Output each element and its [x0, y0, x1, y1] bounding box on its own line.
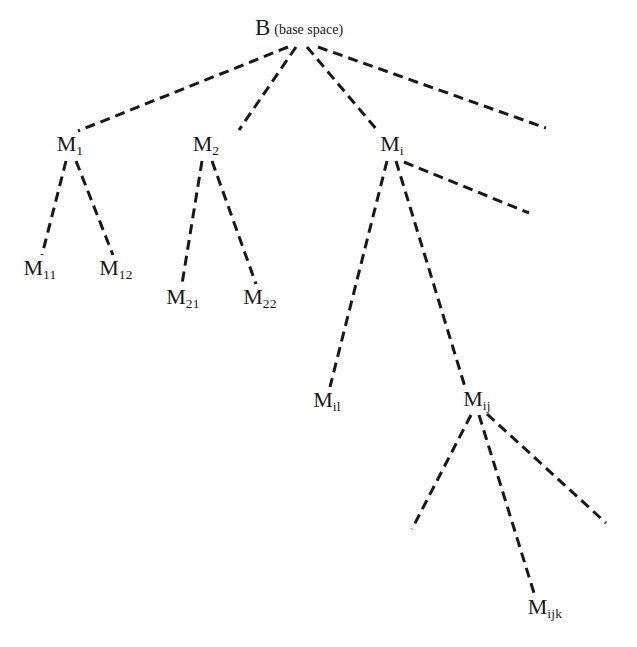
node-mijk-symbol: M — [528, 594, 548, 619]
node-m12: M12 — [99, 257, 132, 281]
node-m11-subscript: 11 — [43, 267, 56, 282]
node-m1-subscript: 1 — [76, 143, 83, 158]
node-m1-symbol: M — [57, 131, 77, 156]
node-m21: M21 — [166, 286, 199, 310]
node-mij: Mij — [463, 388, 490, 412]
node-base-space-symbol: B — [255, 15, 270, 40]
node-m12-subscript: 12 — [119, 267, 133, 282]
node-mijk: Mijk — [528, 596, 562, 620]
node-mil-symbol: M — [313, 387, 333, 412]
node-m11-symbol: M — [24, 255, 44, 280]
node-layer: B(base space) M1 M2 Mi M11 M12 M21 M22 M… — [0, 0, 637, 647]
node-mil-subscript: il — [333, 399, 341, 414]
node-mi-subscript: i — [400, 143, 404, 158]
node-m21-symbol: M — [166, 284, 186, 309]
node-mil: Mil — [313, 389, 340, 413]
node-m22-symbol: M — [243, 284, 263, 309]
node-m22: M22 — [243, 286, 276, 310]
node-mij-symbol: M — [463, 386, 483, 411]
node-mijk-subscript: ijk — [547, 606, 562, 621]
node-mi-symbol: M — [380, 131, 400, 156]
node-m12-symbol: M — [99, 255, 119, 280]
node-m11: M11 — [24, 257, 57, 281]
node-mij-subscript: ij — [483, 398, 491, 413]
node-m2-symbol: M — [193, 131, 213, 156]
node-m2-subscript: 2 — [212, 143, 219, 158]
tree-diagram: B(base space) M1 M2 Mi M11 M12 M21 M22 M… — [0, 0, 637, 647]
node-base-space-annotation: (base space) — [274, 22, 343, 37]
node-m2: M2 — [193, 133, 220, 157]
node-mi: Mi — [380, 133, 404, 157]
node-m1: M1 — [57, 133, 84, 157]
node-m21-subscript: 21 — [186, 296, 200, 311]
node-m22-subscript: 22 — [263, 296, 277, 311]
node-base-space: B(base space) — [255, 16, 343, 39]
